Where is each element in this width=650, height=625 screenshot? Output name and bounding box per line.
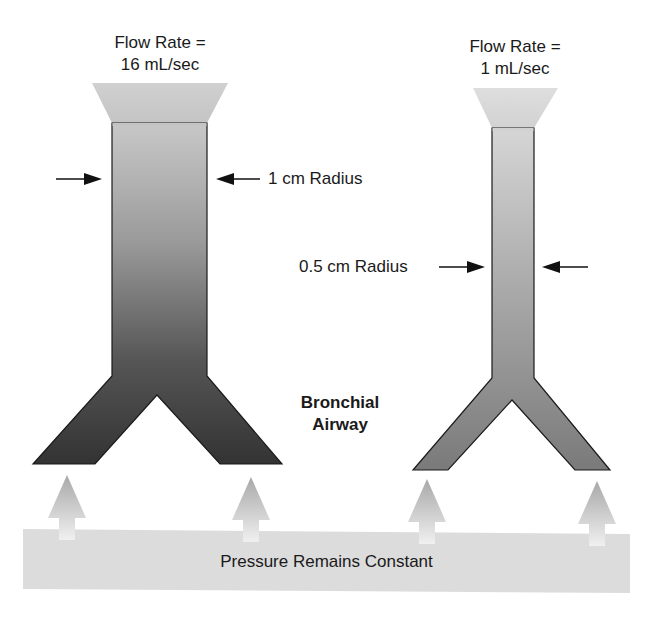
center-label-line2: Airway xyxy=(290,414,390,436)
left-flow-label-line1: Flow Rate = xyxy=(90,32,230,54)
pressure-bar-label: Pressure Remains Constant xyxy=(23,551,630,573)
bronchial-airway-label: Bronchial Airway xyxy=(290,392,390,436)
left-flow-rate-label: Flow Rate = 16 mL/sec xyxy=(90,32,230,76)
bronchial-airway-diagram xyxy=(0,0,650,625)
right-flow-label-line1: Flow Rate = xyxy=(445,36,585,58)
right-flow-label-line2: 1 mL/sec xyxy=(445,58,585,80)
left-airway-tube xyxy=(33,123,282,464)
right-airway-small xyxy=(413,88,610,470)
left-airway-large xyxy=(33,83,282,464)
left-flow-label-line2: 16 mL/sec xyxy=(90,54,230,76)
left-radius-label: 1 cm Radius xyxy=(268,168,362,190)
right-airway-tube xyxy=(413,128,610,470)
center-label-line1: Bronchial xyxy=(290,392,390,414)
radius-arrow-right-outer xyxy=(439,261,485,273)
left-funnel xyxy=(92,83,228,123)
right-flow-rate-label: Flow Rate = 1 mL/sec xyxy=(445,36,585,80)
radius-arrow-left-inner xyxy=(216,173,260,185)
radius-arrow-left-outer xyxy=(56,173,102,185)
right-funnel xyxy=(473,88,558,128)
radius-arrow-right-inner xyxy=(542,261,588,273)
right-radius-label: 0.5 cm Radius xyxy=(299,256,408,278)
